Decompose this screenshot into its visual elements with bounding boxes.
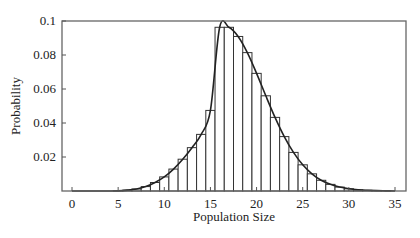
y-tick-label: 0.08	[33, 47, 56, 62]
histogram-chart: 0.020.040.060.080.1 05101520253035 Popul…	[0, 0, 420, 238]
x-tick-label: 35	[389, 196, 402, 211]
y-tick-label: 0.02	[33, 149, 56, 164]
x-tick-label: 5	[115, 196, 122, 211]
histogram-bar	[252, 73, 261, 191]
y-axis-label: Probability	[8, 77, 23, 135]
x-tick-label: 10	[158, 196, 171, 211]
y-tick-label: 0.04	[33, 115, 56, 130]
histogram-bar	[243, 53, 252, 191]
y-tick-label: 0.1	[40, 13, 56, 28]
histogram-bar	[280, 137, 289, 191]
x-tick-label: 30	[342, 196, 355, 211]
y-axis-ticks: 0.020.040.060.080.1	[33, 13, 66, 164]
histogram-bar	[197, 134, 206, 191]
histogram-bar	[224, 27, 233, 191]
histogram-bars	[114, 27, 391, 191]
x-tick-label: 25	[296, 196, 309, 211]
x-tick-label: 0	[69, 196, 76, 211]
x-axis-label: Population Size	[193, 209, 275, 224]
histogram-bar	[234, 36, 243, 191]
histogram-bar	[270, 117, 279, 191]
histogram-bar	[261, 96, 270, 191]
histogram-bar	[187, 148, 196, 191]
y-tick-label: 0.06	[33, 81, 56, 96]
